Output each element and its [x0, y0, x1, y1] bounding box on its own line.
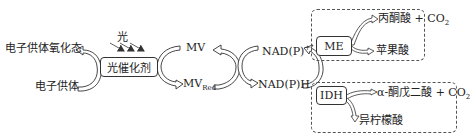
idh-product-label: 异柠檬酸: [359, 115, 403, 127]
electron-donor-label: 电子供体: [35, 81, 79, 93]
me-enzyme-label: ME: [324, 40, 343, 53]
photocatalyst-label: 光催化剂: [107, 59, 151, 75]
me-substrate-label: 丙酮酸 + CO2: [378, 13, 449, 29]
mv-reduction-arrow: [157, 46, 183, 89]
mv-label: MV: [186, 42, 205, 54]
me-enzyme-box: ME: [316, 36, 352, 56]
nadp-oxidized-label: NAD(P)+: [262, 42, 310, 58]
me-product-label: 苹果酸: [376, 45, 409, 57]
mv-red-label: MVRed: [183, 78, 216, 94]
idh-enzyme-box: IDH: [316, 86, 347, 105]
idh-substrate-label: α-酮戊二酸 + CO2: [377, 87, 470, 103]
electron-donor-oxidized-label: 电子供体氧化态: [5, 43, 82, 55]
photocatalyst-box: 光催化剂: [100, 57, 158, 77]
light-label: 光: [117, 32, 128, 44]
nadph-label: NAD(P)H: [258, 79, 310, 91]
idh-enzyme-label: IDH: [320, 89, 343, 102]
light-rays-icon: [110, 43, 144, 51]
mv-nadp-exchange-arrows: [213, 45, 258, 89]
